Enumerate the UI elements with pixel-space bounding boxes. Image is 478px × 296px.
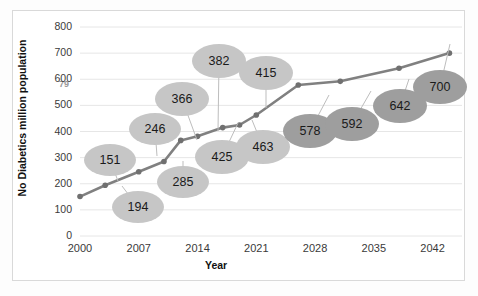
y-axis-tick-label: 100 [42, 203, 72, 215]
data-label-bubble: 151 [84, 144, 136, 176]
data-label-bubble: 592 [325, 107, 379, 141]
data-label-bubble: 700 [413, 70, 467, 104]
x-axis-tick-label: 2000 [57, 242, 103, 254]
y-axis-tick-label: 400 [42, 125, 72, 137]
y-axis-tick-label: 500 [42, 98, 72, 110]
chart-screenshot: No Diabetics million population Year 79 … [0, 0, 478, 296]
x-axis-title: Year [205, 259, 227, 271]
x-axis-tick-label: 2035 [351, 242, 397, 254]
data-label-bubble: 415 [239, 56, 293, 90]
x-axis-tick-label: 2007 [116, 242, 162, 254]
data-label-bubble: 194 [112, 191, 164, 223]
x-axis-tick-label: 2028 [292, 242, 338, 254]
y-axis-tick-label: 600 [42, 72, 72, 84]
y-axis-tick-label: 200 [42, 177, 72, 189]
x-axis-tick-label: 2014 [175, 242, 221, 254]
y-axis-tick-label: 700 [42, 46, 72, 58]
data-label-bubble: 285 [157, 166, 209, 198]
y-axis-tick-label: 300 [42, 151, 72, 163]
x-axis-tick-label: 2021 [233, 242, 279, 254]
x-axis-tick-label: 2042 [410, 242, 456, 254]
data-label-bubble: 382 [192, 44, 246, 78]
data-label-bubble: 246 [129, 113, 181, 145]
data-label-bubble: 366 [155, 82, 209, 116]
y-axis-title: No Diabetics million population [16, 38, 28, 198]
data-label-bubble: 463 [236, 130, 290, 164]
y-axis-tick-label: 800 [42, 20, 72, 32]
y-axis-tick-label: 0 [42, 229, 72, 241]
